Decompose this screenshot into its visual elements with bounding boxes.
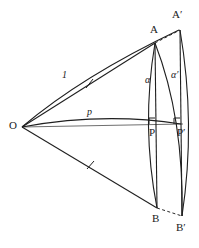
point-label-B-prime: B′ <box>176 222 186 233</box>
dashed-segment-A-to-Aprime <box>155 30 180 43</box>
point-label-A: A <box>150 24 158 35</box>
geometry-canvas <box>0 0 199 248</box>
angle-label-alpha-prime: α′ <box>171 70 178 80</box>
dashed-segment-B-to-Bprime <box>157 208 182 216</box>
point-label-P: P <box>149 127 155 138</box>
point-label-B: B <box>152 213 159 224</box>
segment-label-one: 1 <box>62 70 67 80</box>
point-label-A-prime: A′ <box>172 9 182 20</box>
baseline-O-to-Pprime <box>22 124 183 127</box>
geometry-figure: O A A′ P P′ B B′ 1 p α α′ <box>0 0 199 248</box>
vertical-line-A-P-B <box>155 43 157 208</box>
segment-O-to-B <box>22 127 157 208</box>
angle-label-alpha: α <box>145 75 150 85</box>
segment-label-p: p <box>87 107 92 117</box>
point-label-O: O <box>9 120 17 131</box>
point-label-P-prime: P′ <box>177 127 186 138</box>
